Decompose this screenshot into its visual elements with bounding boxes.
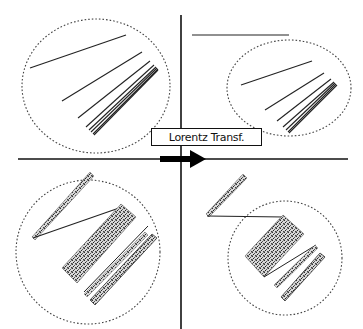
lorentz-transform-label: Lorentz Transf. [151,128,262,146]
fan-lines [30,35,158,135]
top-right-moving-frame [192,35,351,136]
bottom-left-rest-frame [16,172,160,324]
speckled-strip [32,172,94,240]
top-left-rest-frame [22,19,170,153]
transform-arrow-icon [160,150,206,168]
speckled-strip [206,174,247,217]
bottom-right-moving-frame [206,174,342,315]
lorentz-transform-diagram [0,0,363,329]
contracted-fan-lines [241,61,337,133]
